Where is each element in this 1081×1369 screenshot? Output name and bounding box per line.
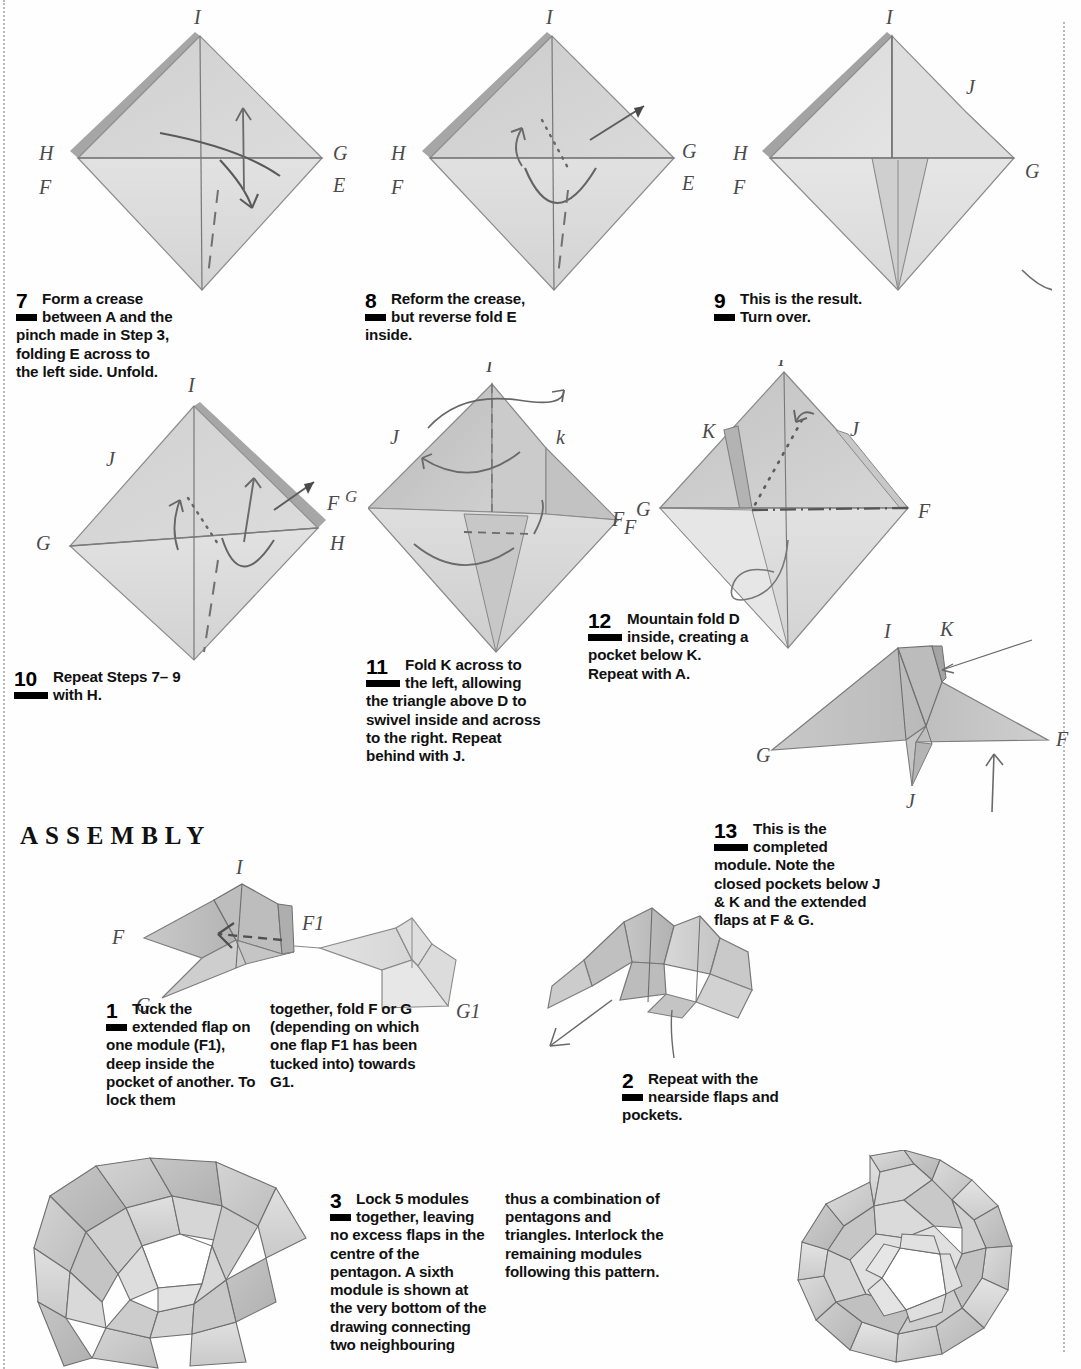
svg-text:G: G — [636, 498, 651, 520]
svg-text:F: F — [326, 492, 340, 514]
step-9-number: 9 — [714, 290, 735, 321]
diagram-step-13: I K G F J — [756, 618, 1076, 818]
step-number-underline — [330, 1214, 351, 1221]
step-10-number: 10 — [14, 668, 48, 699]
step-7-number: 7 — [16, 290, 37, 321]
origami-instruction-page: H F G E I H F G E — [0, 0, 1081, 1369]
diagram-assembly-3-finished-model — [744, 1150, 1064, 1369]
step-8-number: 8 — [365, 290, 386, 321]
svg-text:I: I — [485, 362, 494, 376]
svg-text:J: J — [850, 418, 860, 440]
svg-text:I: I — [883, 620, 892, 642]
assembly-step-1-text: 1 Tuck the extended flap on one module (… — [106, 1000, 256, 1109]
step-number-underline — [16, 314, 37, 321]
assembly-step-3-body-column2: thus a combination of pentagons and tria… — [505, 1190, 665, 1281]
step-12-number: 12 — [588, 610, 622, 641]
svg-text:H: H — [732, 142, 749, 164]
svg-text:G: G — [36, 532, 51, 554]
assembly-step-1-body: Tuck the extended flap on one module (F1… — [106, 1000, 256, 1109]
step-number-underline — [714, 314, 735, 321]
assembly-step-2-body: Repeat with the nearside flaps and pocke… — [622, 1070, 792, 1125]
assembly-step-3-body: Lock 5 modules together, leaving no exce… — [330, 1190, 490, 1354]
step-13-number: 13 — [714, 820, 748, 851]
svg-text:H: H — [390, 142, 407, 164]
svg-text:I: I — [545, 8, 554, 28]
step-number-underline — [14, 692, 48, 699]
diagram-step-8: H F G E I — [382, 8, 712, 308]
svg-text:F: F — [38, 176, 52, 198]
step-9-text: 9 This is the result. Turn over. — [714, 290, 894, 326]
svg-text:E: E — [681, 172, 694, 194]
svg-text:F: F — [732, 176, 746, 198]
step-number-underline — [622, 1094, 643, 1101]
assembly-step-1-body-column2: together, fold F or G (depending on whic… — [270, 1000, 425, 1091]
svg-text:F: F — [1055, 728, 1069, 750]
svg-text:I: I — [187, 374, 196, 396]
assembly-step-1-number: 1 — [106, 1000, 127, 1031]
svg-text:H: H — [38, 142, 55, 164]
svg-text:I: I — [777, 360, 786, 370]
assembly-step-2-text: 2 Repeat with the nearside flaps and poc… — [622, 1070, 792, 1125]
svg-text:J: J — [106, 448, 116, 470]
assembly-step-3-text: 3 Lock 5 modules together, leaving no ex… — [330, 1190, 490, 1354]
step-number-underline — [714, 844, 748, 851]
svg-text:E: E — [332, 174, 345, 196]
diagram-step-10: J G F G H I — [22, 360, 362, 680]
step-11-text: 11 Fold K across to the left, allowing t… — [366, 656, 546, 765]
diagram-step-7: H F G E I — [30, 8, 360, 308]
step-number-underline — [365, 314, 386, 321]
svg-text:J: J — [966, 76, 976, 98]
svg-text:J: J — [906, 790, 916, 812]
step-11-number: 11 — [366, 656, 400, 687]
assembly-section-heading: ASSEMBLY — [20, 822, 211, 850]
svg-text:K: K — [701, 420, 717, 442]
step-9-body: This is the result. Turn over. — [714, 290, 894, 326]
svg-text:K: K — [939, 618, 955, 640]
step-8-body: Reform the crease, but reverse fold E in… — [365, 290, 540, 345]
step-12-text: 12 Mountain fold D inside, creating a po… — [588, 610, 753, 683]
svg-text:F: F — [390, 176, 404, 198]
svg-text:G: G — [1025, 160, 1040, 182]
svg-text:F: F — [917, 500, 931, 522]
svg-text:H: H — [329, 532, 346, 554]
diagram-assembly-3-cluster — [30, 1152, 340, 1369]
assembly-step-2-number: 2 — [622, 1070, 643, 1101]
svg-text:J: J — [390, 426, 400, 448]
svg-text:I: I — [193, 8, 202, 28]
svg-text:F: F — [111, 926, 125, 948]
step-number-underline — [106, 1024, 127, 1031]
step-number-underline — [366, 680, 400, 687]
step-number-underline — [588, 634, 622, 641]
step-8-text: 8 Reform the crease, but reverse fold E … — [365, 290, 540, 345]
assembly-step-3-number: 3 — [330, 1190, 351, 1221]
svg-text:G: G — [682, 140, 697, 162]
svg-text:I: I — [885, 8, 894, 28]
page-edge-rule-left — [3, 0, 5, 1369]
svg-text:I: I — [235, 856, 244, 878]
diagram-assembly-2 — [452, 890, 842, 1060]
svg-text:G: G — [333, 142, 348, 164]
svg-text:F: F — [612, 508, 625, 530]
svg-text:G: G — [756, 744, 771, 766]
svg-text:F1: F1 — [301, 912, 324, 934]
svg-text:k: k — [556, 426, 566, 448]
svg-text:G: G — [345, 487, 357, 506]
diagram-step-9: H F G J I — [722, 8, 1052, 308]
step-10-text: 10 Repeat Steps 7– 9 with H. — [14, 668, 204, 704]
